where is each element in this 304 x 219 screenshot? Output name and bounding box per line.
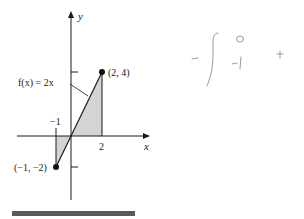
y-axis-label: y: [77, 10, 83, 22]
label-leader-line: [70, 84, 88, 96]
handwritten-plus: [277, 51, 283, 58]
x-tick-label-neg1: −1: [50, 116, 61, 127]
point-neg1-neg2: [53, 164, 59, 170]
point-label-neg1-neg2: (−1, −2): [14, 162, 47, 174]
point-label-2-4: (2, 4): [108, 67, 130, 79]
x-axis-arrow-icon: [143, 133, 150, 139]
lower-limit-minus: [232, 63, 237, 64]
integral-sign-icon: [207, 33, 218, 86]
lower-limit-1: [240, 57, 241, 69]
function-label: f(x) = 2x: [18, 77, 54, 89]
x-axis-label: x: [143, 140, 149, 152]
handwritten-minus: [192, 58, 198, 59]
bottom-divider-bar: [12, 211, 135, 216]
x-tick-label-2: 2: [99, 141, 104, 152]
graph-figure: y x −1 2 (2, 4) (−1, −2) f(x) = 2x: [0, 0, 304, 219]
y-axis-arrow-icon: [68, 11, 74, 18]
upper-limit-0: [237, 36, 244, 42]
point-2-4: [99, 69, 105, 75]
handwritten-integral: [192, 33, 283, 86]
